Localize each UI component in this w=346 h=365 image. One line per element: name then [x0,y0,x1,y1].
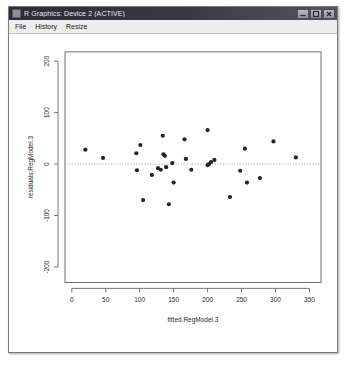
data-point [170,161,174,165]
data-point [184,157,188,161]
svg-text:200: 200 [43,55,50,66]
data-point [150,173,154,177]
data-point [258,176,262,180]
r-graphics-window: R Graphics: Device 2 (ACTIVE) File Histo… [8,6,338,353]
menu-item-history[interactable]: History [32,23,63,30]
maximize-icon [312,10,320,18]
svg-text:250: 250 [236,296,247,303]
menu-item-resize[interactable]: Resize [63,23,93,30]
plot-canvas: 050100150200250300350 -200-1000100200 fi… [9,34,337,352]
chart-icon [12,9,21,18]
data-point [238,169,242,173]
data-point [164,165,168,169]
data-point [135,168,139,172]
data-point [271,139,275,143]
svg-text:100: 100 [43,107,50,118]
data-point [294,155,298,159]
svg-text:200: 200 [202,296,213,303]
svg-text:50: 50 [102,296,110,303]
svg-text:0: 0 [43,162,50,166]
menu-bar: File History Resize [9,20,337,34]
svg-text:-100: -100 [43,209,50,222]
plot-frame [65,52,321,283]
data-point [101,156,105,160]
x-axis-title: fitted.RegModel.3 [168,316,219,324]
close-icon [325,10,333,18]
data-point [141,198,145,202]
data-point [83,148,87,152]
data-point [245,181,249,185]
svg-text:100: 100 [134,296,145,303]
residuals-vs-fitted-scatter-plot: 050100150200250300350 -200-1000100200 fi… [9,34,337,352]
close-button[interactable] [323,9,335,19]
data-point [205,128,209,132]
minimize-icon [299,10,307,18]
svg-text:-200: -200 [43,260,50,273]
data-point [161,134,165,138]
data-point [138,143,142,147]
minimize-button[interactable] [297,9,309,19]
data-point [182,137,186,141]
svg-text:350: 350 [304,296,315,303]
data-point [163,154,167,158]
data-point [159,168,163,172]
data-point [167,202,171,206]
data-point [212,158,216,162]
y-axis: -200-1000100200 [43,55,58,273]
window-title: R Graphics: Device 2 (ACTIVE) [24,10,296,17]
y-axis-title: residuals.RegModel.3 [27,136,35,199]
data-point [172,181,176,185]
title-bar[interactable]: R Graphics: Device 2 (ACTIVE) [9,7,337,20]
data-point [134,151,138,155]
data-point [189,168,193,172]
x-axis: 050100150200250300350 [70,288,315,303]
menu-item-file[interactable]: File [12,23,32,30]
data-point [228,195,232,199]
data-points [83,128,298,206]
data-point [243,147,247,151]
svg-text:300: 300 [270,296,281,303]
maximize-button[interactable] [310,9,322,19]
svg-text:0: 0 [70,296,74,303]
svg-text:150: 150 [168,296,179,303]
